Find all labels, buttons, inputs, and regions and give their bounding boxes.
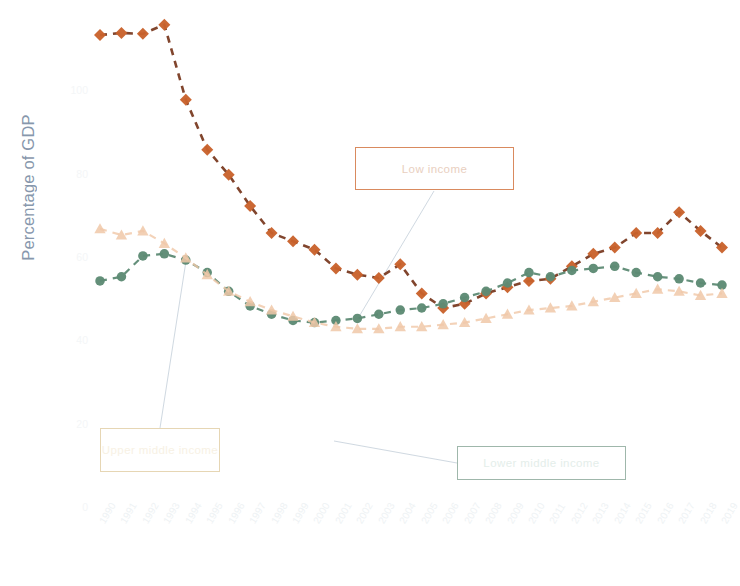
data-point (631, 288, 642, 298)
data-point (417, 303, 427, 313)
data-point (587, 248, 599, 260)
callout-low-income[interactable]: Low income (355, 147, 514, 190)
data-point (158, 19, 170, 31)
data-point (524, 268, 534, 278)
data-point (266, 304, 277, 314)
data-point (330, 262, 342, 274)
data-point (546, 272, 556, 282)
data-point (94, 29, 106, 41)
data-point (373, 272, 385, 284)
data-point (137, 28, 149, 40)
leader-line-upper-middle-income (160, 261, 186, 428)
series-line (100, 229, 722, 329)
data-point (353, 314, 363, 324)
data-point (137, 225, 148, 235)
callout-lower-middle-income[interactable]: Lower middle income (457, 446, 626, 480)
callout-low-income-label: Low income (402, 163, 467, 175)
data-point (460, 293, 470, 303)
data-point (673, 206, 685, 218)
data-point (159, 238, 170, 248)
data-point (94, 223, 105, 233)
callout-upper-middle-income[interactable]: Upper middle income (100, 428, 220, 472)
data-point (180, 94, 192, 106)
data-point (374, 309, 384, 319)
data-point (201, 144, 213, 156)
data-point (503, 278, 513, 288)
data-point (396, 305, 406, 315)
leader-line-low-income (357, 191, 434, 320)
data-point (160, 249, 170, 259)
data-point (631, 268, 641, 278)
data-point (138, 251, 148, 261)
series-upper-middle-income (94, 223, 727, 333)
callout-lower-middle-income-label: Lower middle income (483, 457, 599, 469)
data-point (673, 286, 684, 296)
data-point (244, 296, 255, 306)
leader-line-lower-middle-income (334, 441, 457, 463)
data-point (696, 278, 706, 288)
data-point (630, 227, 642, 239)
data-point (589, 264, 599, 274)
y-axis-label: Percentage of GDP (19, 98, 38, 278)
data-point (674, 274, 684, 284)
data-point (416, 287, 428, 299)
data-point (502, 309, 513, 319)
data-point (610, 262, 620, 272)
callout-upper-middle-income-label: Upper middle income (102, 444, 218, 456)
data-point (287, 235, 299, 247)
data-point (653, 272, 663, 282)
data-point (95, 276, 105, 286)
data-point (115, 27, 127, 39)
data-point (180, 252, 191, 262)
data-point (481, 287, 491, 297)
data-point (609, 242, 621, 254)
data-point (567, 266, 577, 276)
data-point (438, 299, 448, 309)
data-point (266, 227, 278, 239)
data-point (117, 272, 127, 282)
data-point (351, 269, 363, 281)
data-point (716, 288, 727, 298)
